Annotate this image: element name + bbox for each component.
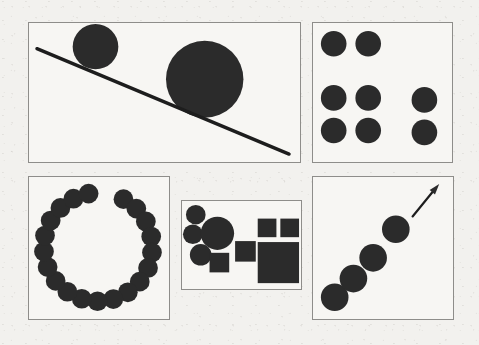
filled-circle [186, 205, 206, 225]
panel-line-and-circles[interactable] [28, 22, 301, 163]
filled-circle [201, 217, 234, 250]
filled-circle [382, 215, 410, 243]
panel-circle-ring-graphic [29, 177, 169, 319]
filled-square [235, 241, 256, 262]
figure-canvas [0, 0, 479, 345]
filled-square [258, 242, 299, 283]
filled-circle [321, 31, 347, 57]
filled-square [210, 253, 230, 273]
arrow-shaft [413, 192, 433, 216]
ring-dot [79, 184, 99, 204]
filled-square [280, 219, 299, 238]
panel-circle-grid-graphic [313, 23, 452, 162]
filled-square [258, 219, 277, 238]
filled-circle [183, 224, 203, 244]
filled-circle [412, 87, 438, 113]
panel-circles-and-squares-graphic [182, 201, 301, 289]
filled-circle [73, 24, 119, 69]
panel-circles-and-squares[interactable] [181, 200, 302, 290]
panel-circle-ring[interactable] [28, 176, 170, 320]
filled-circle [355, 85, 381, 111]
filled-circle [190, 244, 212, 266]
filled-circle [355, 31, 381, 57]
diagonal-line [37, 49, 289, 154]
filled-circle [321, 118, 347, 144]
filled-circle [340, 265, 368, 293]
panel-circle-grid[interactable] [312, 22, 453, 163]
panel-line-and-circles-graphic [29, 23, 300, 162]
filled-circle [412, 120, 438, 146]
panel-circles-with-arrow[interactable] [312, 176, 454, 320]
filled-circle [359, 244, 387, 272]
panel-circles-with-arrow-graphic [313, 177, 453, 319]
filled-circle [355, 118, 381, 144]
filled-circle [321, 85, 347, 111]
